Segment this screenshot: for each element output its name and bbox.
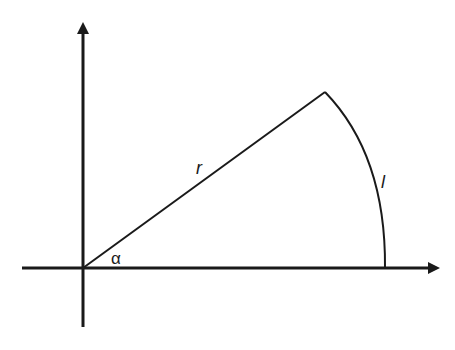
radius-line <box>83 92 325 268</box>
y-axis <box>77 22 89 327</box>
x-axis-arrow-icon <box>428 262 440 274</box>
radius-label: r <box>196 158 203 178</box>
arc-length-label: l <box>381 172 386 192</box>
angle-label: α <box>111 249 121 268</box>
arc <box>325 92 385 268</box>
y-axis-arrow-icon <box>77 22 89 34</box>
sector-diagram: α r l <box>0 0 455 350</box>
